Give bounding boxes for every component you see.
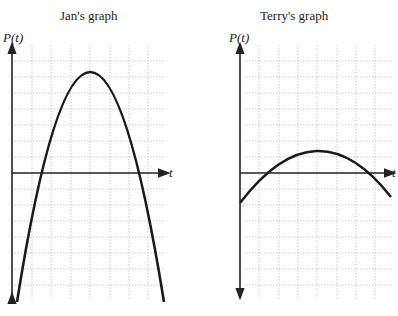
jan-curve	[17, 72, 164, 302]
terry-chart: P(t) t	[228, 30, 396, 300]
terry-xlabel: t	[392, 165, 396, 180]
terry-curve	[240, 151, 391, 203]
charts-svg: P(t) t	[0, 0, 398, 316]
jan-xlabel: t	[169, 165, 173, 180]
terry-ylabel: P(t)	[228, 30, 249, 45]
jan-ylabel: P(t)	[2, 30, 23, 45]
jan-chart: P(t) t	[2, 30, 173, 302]
